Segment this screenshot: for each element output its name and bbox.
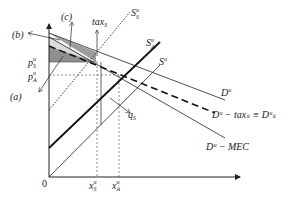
label-S-S: SuS xyxy=(131,7,139,20)
label-a: (a) xyxy=(10,91,22,103)
economics-diagram: (b) (c) taxS (a) puS puA SuS SuA Su Du D… xyxy=(0,0,289,200)
curve-D xyxy=(49,33,225,100)
arrow-q xyxy=(110,98,130,113)
label-pS: puS xyxy=(27,56,36,69)
label-S: Su xyxy=(159,56,167,67)
label-c: (c) xyxy=(61,11,73,23)
curve-S xyxy=(49,65,160,177)
shaded-areas xyxy=(49,33,96,62)
guide-lines xyxy=(49,62,119,177)
label-S-A: SuA xyxy=(146,37,155,50)
label-q: qS xyxy=(128,109,136,121)
label-D: Du xyxy=(220,87,231,98)
label-xA: xuA xyxy=(111,179,120,192)
origin-label: 0 xyxy=(42,178,47,189)
label-D-MEC: Dᵘ − MEC xyxy=(205,141,249,152)
label-xS: xuS xyxy=(88,179,96,192)
label-D-tax: Dᵘ − taxₛ ≡ Dᵘₛ xyxy=(211,109,276,120)
diagram-canvas: (b) (c) taxS (a) puS puA SuS SuA Su Du D… xyxy=(0,0,289,200)
label-pA: puA xyxy=(27,70,37,83)
label-b: (b) xyxy=(12,29,24,41)
label-tax: taxS xyxy=(92,16,107,28)
